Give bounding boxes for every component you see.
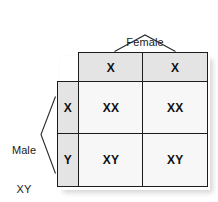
- male-bracket-icon: [40, 96, 56, 174]
- female-bracket-icon: [114, 34, 176, 52]
- male-gamete-header-1: Y: [57, 133, 79, 187]
- offspring-cell: XY: [142, 133, 208, 187]
- offspring-cell: XX: [142, 81, 208, 134]
- female-gamete-header-0: X: [78, 52, 144, 83]
- male-parent-genotype: XY: [2, 183, 46, 196]
- offspring-cell: XX: [78, 81, 144, 134]
- punnett-square-diagram: Female XX Male XY X X X Y XX XX XY XY: [0, 0, 218, 202]
- offspring-cell: XY: [78, 133, 144, 187]
- female-gamete-header-1: X: [142, 52, 208, 83]
- male-gamete-header-0: X: [57, 81, 79, 134]
